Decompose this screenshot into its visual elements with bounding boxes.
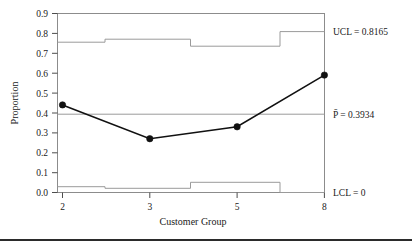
x-axis-tick-labels: 2 3 5 8 [60, 202, 327, 212]
data-point [59, 102, 65, 108]
x-tick-label: 8 [322, 202, 327, 212]
x-tick-label: 3 [147, 202, 152, 212]
x-tick-label: 2 [60, 202, 65, 212]
y-tick-label: 0.5 [36, 89, 48, 99]
y-tick-label: 0.4 [36, 109, 48, 119]
y-tick-label: 0.8 [36, 29, 48, 39]
x-tick-label: 5 [235, 202, 240, 212]
y-tick-label: 0.7 [36, 49, 48, 59]
control-chart-figure: 0.9 0.8 0.7 0.6 0.5 0.4 0.3 0.2 0.1 0.0 … [0, 0, 412, 249]
y-axis-tick-labels: 0.9 0.8 0.7 0.6 0.5 0.4 0.3 0.2 0.1 0.0 [36, 9, 48, 198]
y-axis-tickmarks [52, 14, 58, 193]
data-series-line [63, 75, 325, 139]
y-tick-label: 0.6 [36, 69, 48, 79]
data-point [147, 136, 153, 142]
y-tick-label: 0.3 [36, 128, 48, 138]
data-point [321, 72, 327, 78]
upper-control-limit-line [58, 32, 325, 47]
y-tick-label: 0.2 [36, 148, 48, 158]
y-tick-label: 0.0 [36, 188, 48, 198]
data-point-markers [59, 72, 327, 142]
y-axis-title: Proportion [9, 82, 20, 125]
p-chart-canvas: 0.9 0.8 0.7 0.6 0.5 0.4 0.3 0.2 0.1 0.0 … [0, 0, 412, 249]
y-tick-label: 0.9 [36, 9, 48, 19]
lcl-annotation-label: LCL = 0 [333, 188, 366, 198]
x-axis-title: Customer Group [160, 216, 227, 227]
ucl-annotation-label: UCL = 0.8165 [333, 27, 388, 37]
y-tick-label: 0.1 [36, 168, 48, 178]
center-line-annotation-label: P̄ = 0.3934 [333, 109, 374, 120]
x-axis-tickmarks [63, 193, 325, 199]
lower-control-limit-line [58, 182, 325, 192]
data-point [234, 124, 240, 130]
